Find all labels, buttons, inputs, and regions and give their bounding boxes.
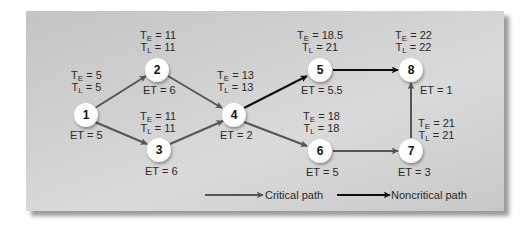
edge-2-4 xyxy=(168,76,222,108)
node-1-te: TE = 5 xyxy=(71,69,102,81)
node-7-times: TE = 21 TL = 21 xyxy=(418,117,455,141)
node-8-te: TE = 22 xyxy=(395,29,432,41)
node-3-id: 3 xyxy=(156,143,163,157)
node-3-tl: TL = 11 xyxy=(140,122,176,134)
legend-critical-label: Critical path xyxy=(265,189,323,201)
node-6-tl: TL = 18 xyxy=(303,122,340,134)
node-3-times: TE = 11 TL = 11 xyxy=(140,110,176,134)
node-4-te: TE = 13 xyxy=(217,69,254,81)
node-2: 2 xyxy=(145,58,169,82)
node-3-te: TE = 11 xyxy=(140,110,176,122)
node-2-te: TE = 11 xyxy=(140,29,176,41)
node-5-et: ET = 5.5 xyxy=(301,84,343,96)
node-4-times: TE = 13 TL = 13 xyxy=(217,69,254,93)
node-6-te: TE = 18 xyxy=(303,110,340,122)
edge-3-4 xyxy=(170,121,223,144)
node-7-id: 7 xyxy=(408,144,415,158)
node-4-et: ET = 2 xyxy=(220,129,253,141)
node-1: 1 xyxy=(74,103,98,127)
node-8-times: TE = 22 TL = 22 xyxy=(395,29,432,53)
node-4-tl: TL = 13 xyxy=(217,81,254,93)
edge-1-2 xyxy=(95,76,146,108)
node-8-tl: TL = 22 xyxy=(395,41,432,53)
node-1-times: TE = 5 TL = 5 xyxy=(71,69,102,93)
node-5-tl: TL = 21 xyxy=(297,41,343,53)
node-4-id: 4 xyxy=(231,108,238,122)
node-4: 4 xyxy=(222,103,246,127)
node-3-et: ET = 6 xyxy=(145,165,178,177)
node-6: 6 xyxy=(308,139,332,163)
node-6-et: ET = 5 xyxy=(306,166,339,178)
node-8-et: ET = 1 xyxy=(420,84,453,96)
node-2-tl: TL = 11 xyxy=(140,41,176,53)
node-1-id: 1 xyxy=(83,108,90,122)
node-1-tl: TL = 5 xyxy=(71,81,102,93)
node-6-id: 6 xyxy=(317,144,324,158)
node-3: 3 xyxy=(147,138,171,162)
node-5-id: 5 xyxy=(317,63,324,77)
node-8: 8 xyxy=(399,58,423,82)
node-2-id: 2 xyxy=(154,63,161,77)
node-2-et: ET = 6 xyxy=(143,84,176,96)
node-8-id: 8 xyxy=(408,63,415,77)
node-7: 7 xyxy=(399,139,423,163)
node-7-et: ET = 3 xyxy=(398,166,431,178)
edge-4-6 xyxy=(244,122,307,146)
node-6-times: TE = 18 TL = 18 xyxy=(303,110,340,134)
node-1-et: ET = 5 xyxy=(70,129,103,141)
legend-noncritical-label: Noncritical path xyxy=(391,189,467,201)
node-5-te: TE = 18.5 xyxy=(297,29,343,41)
node-5: 5 xyxy=(308,58,332,82)
node-7-te: TE = 21 xyxy=(418,117,455,129)
node-7-tl: TL = 21 xyxy=(418,129,455,141)
node-5-times: TE = 18.5 TL = 21 xyxy=(297,29,343,53)
node-2-times: TE = 11 TL = 11 xyxy=(140,29,176,53)
